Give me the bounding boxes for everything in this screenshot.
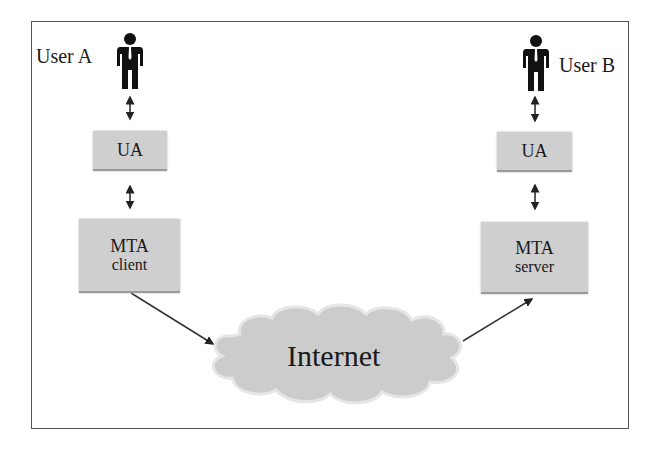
mta-client-subtitle: client [112,256,148,274]
user-b-person-icon [522,34,550,92]
mta-server-title: MTA [515,238,554,258]
ua-left-label: UA [117,140,143,160]
mta-server-box: MTA server [481,222,588,294]
internet-label: Internet [287,341,380,371]
internet-to-mta-server-arrow [463,299,532,341]
mta-client-box: MTA client [79,219,180,293]
user-a-person-icon [116,32,144,90]
mta-server-subtitle: server [515,258,554,276]
ua-left-box: UA [93,131,167,171]
user-a-label: User A [36,46,92,66]
ua-right-label: UA [522,141,548,161]
mta-client-title: MTA [110,236,149,256]
user-b-label: User B [559,55,615,75]
mta-client-to-internet-arrow [131,293,213,344]
ua-right-box: UA [497,132,572,172]
